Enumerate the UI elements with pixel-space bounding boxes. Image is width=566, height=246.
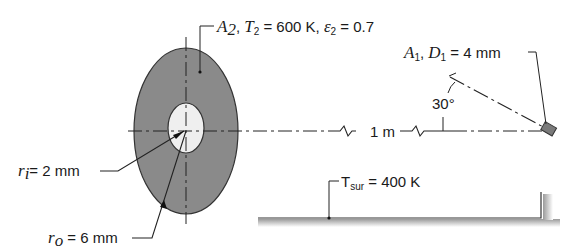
detector xyxy=(541,122,557,136)
disk-label: A2, T2 = 600 K, ε2 = 0.7 xyxy=(217,18,374,35)
angle-arc xyxy=(448,82,455,93)
surroundings-surface xyxy=(258,192,560,227)
surroundings-leader xyxy=(329,181,339,218)
diagram-canvas xyxy=(0,0,566,246)
detector-sightline xyxy=(450,77,547,129)
outer-radius-label: ro = 6 mm xyxy=(48,229,118,246)
distance-label: 1 m xyxy=(368,124,397,139)
detector-label: A1, D1 = 4 mm xyxy=(404,44,501,61)
angle-label: 30° xyxy=(432,96,455,111)
detector-leader xyxy=(528,52,546,124)
surroundings-label: Tsur = 400 K xyxy=(341,174,420,189)
inner-radius-label: ri= 2 mm xyxy=(18,162,80,179)
